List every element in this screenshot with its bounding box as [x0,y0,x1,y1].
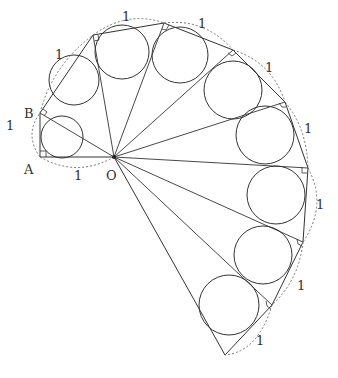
unit-label-edge-7: 1 [316,197,324,212]
unit-label-edge-4: 1 [198,16,206,31]
unit-label-edge-8: 1 [297,278,305,293]
label-B: B [24,106,34,121]
unit-label-AO: 1 [74,168,82,183]
diagram-canvas: B A O 1 1 1 1 1 1 1 1 1 1 [0,0,338,378]
label-A: A [23,162,34,177]
center-point-O [112,155,116,159]
unit-arcs [32,19,317,355]
spiral-diagram: B A O 1 1 1 1 1 1 1 1 1 1 [0,0,338,378]
unit-label-AB: 1 [6,118,14,133]
unit-label-edge-5: 1 [265,60,273,75]
unit-label-edge-2: 1 [55,47,63,62]
unit-label-edge-9: 1 [256,333,264,348]
unit-label-edge-6: 1 [304,121,312,136]
unit-label-edge-3: 1 [122,9,130,24]
label-O: O [106,168,117,183]
